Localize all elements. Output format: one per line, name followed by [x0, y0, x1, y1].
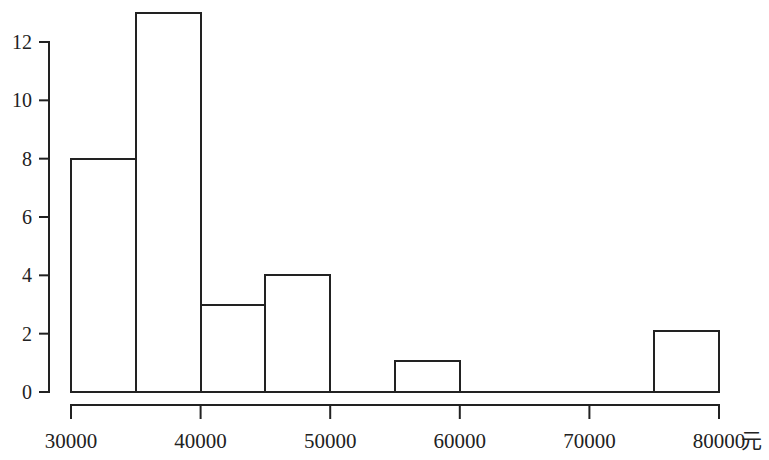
y-axis-tick-label: 10 [0, 90, 32, 110]
histogram-chart: 024681012 300004000050000600007000080000… [0, 0, 769, 460]
x-axis-tick-label: 60000 [434, 431, 487, 452]
x-axis-tick-label: 50000 [304, 431, 357, 452]
x-axis-tick-label: 30000 [45, 431, 98, 452]
histogram-bar [395, 361, 460, 392]
bar-series [71, 13, 719, 392]
histogram-bar [265, 275, 330, 392]
x-axis-unit-label: 元 [741, 431, 762, 452]
x-axis-tick-label: 70000 [563, 431, 616, 452]
y-axis-tick-label: 2 [0, 324, 32, 344]
y-axis [40, 42, 49, 392]
y-axis-tick-label: 6 [0, 207, 32, 227]
histogram-bar [71, 159, 136, 392]
y-axis-tick-label: 4 [0, 265, 32, 285]
histogram-bar [136, 13, 201, 392]
histogram-bar [201, 305, 266, 393]
x-axis-tick-label: 40000 [174, 431, 227, 452]
histogram-plot-area [0, 0, 769, 460]
x-axis-bracket [71, 405, 719, 418]
histogram-bar [654, 331, 719, 392]
y-axis-tick-label: 12 [0, 32, 32, 52]
x-axis-tick-label: 80000 [693, 431, 746, 452]
y-axis-tick-label: 8 [0, 149, 32, 169]
y-axis-tick-label: 0 [0, 382, 32, 402]
